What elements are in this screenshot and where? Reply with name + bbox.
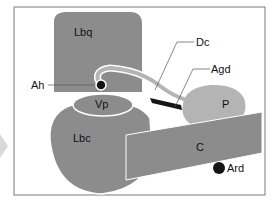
label-ard: Ard (227, 162, 244, 174)
label-p: P (222, 98, 229, 110)
label-vp: Vp (95, 98, 108, 110)
label-agd: Agd (211, 63, 231, 75)
label-lbq: Lbq (74, 26, 92, 38)
anatomy-diagram: Lbq Dc Agd Ah Vp P Lbc C Ard (0, 0, 277, 209)
side-arrow (0, 134, 8, 158)
label-c: C (196, 141, 204, 153)
label-lbc: Lbc (73, 132, 91, 144)
label-ah: Ah (31, 79, 44, 91)
structure-ah (96, 80, 106, 90)
structure-ard (213, 162, 225, 174)
label-dc: Dc (196, 36, 210, 48)
